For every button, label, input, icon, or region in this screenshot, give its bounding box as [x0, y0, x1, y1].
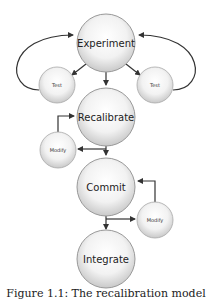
node-label: Experiment	[77, 38, 135, 49]
node-label: Commit	[86, 182, 125, 193]
arrow-experiment-to-test-left	[72, 64, 86, 75]
node-label: Integrate	[83, 254, 129, 265]
node-test-right: Test	[137, 67, 173, 103]
node-modify-right: Modify	[137, 202, 173, 238]
node-label: Modify	[147, 217, 164, 224]
node-commit: Commit	[77, 158, 135, 216]
node-integrate: Integrate	[77, 230, 135, 288]
arrow-experiment-to-test-right	[126, 64, 140, 75]
node-modify-left: Modify	[40, 132, 76, 168]
node-test-left: Test	[39, 67, 75, 103]
node-label: Modify	[50, 147, 67, 154]
node-recalibrate: Recalibrate	[77, 88, 135, 146]
node-label: Test	[51, 82, 62, 88]
figure-caption: Figure 1.1: The recalibration model	[0, 287, 212, 300]
node-label: Test	[149, 82, 160, 88]
node-experiment: Experiment	[77, 14, 135, 72]
loop-modify-right-to-commit	[138, 181, 155, 202]
node-label: Recalibrate	[78, 112, 135, 123]
loop-modify-left-to-recalibrate	[58, 116, 74, 132]
